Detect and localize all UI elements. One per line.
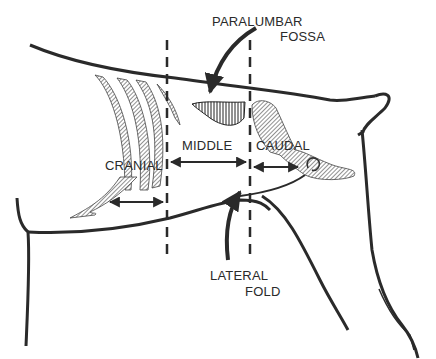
middle-label: MIDDLE xyxy=(182,138,232,153)
foreleg-outline xyxy=(17,198,29,346)
back-outline xyxy=(30,45,375,101)
diagram-drawing xyxy=(0,0,436,359)
tail-head-outline xyxy=(358,94,389,135)
rear-thigh-outline xyxy=(362,130,418,358)
cranial-label: CRANIAL xyxy=(105,158,163,173)
lateral-label-line2: FOLD xyxy=(245,284,280,299)
stifle-outline xyxy=(262,196,348,330)
rear-hock-line xyxy=(379,289,414,350)
paralumbar-label-line2: FOSSA xyxy=(280,29,325,44)
lateral-label-line1: LATERAL xyxy=(210,268,268,283)
paralumbar-fossa-patch xyxy=(192,102,245,125)
caudal-label: CAUDAL xyxy=(256,138,310,153)
flank-regions-diagram: PARALUMBAR FOSSA CRANIAL MIDDLE CAUDAL L… xyxy=(0,0,436,359)
paralumbar-label-line1: PARALUMBAR xyxy=(212,14,303,29)
ribs-hatched xyxy=(70,75,180,218)
